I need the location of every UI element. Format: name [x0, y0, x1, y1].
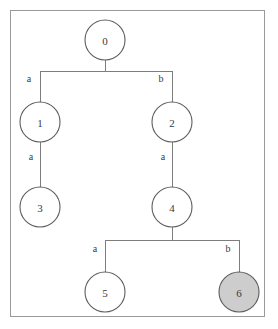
edge-label-e1-3: a	[29, 151, 34, 162]
connectors-layer	[40, 60, 239, 272]
node-label: 6	[236, 287, 242, 299]
node-label: 3	[37, 202, 43, 214]
node-label: 2	[169, 117, 175, 129]
edge-label-e0-2: b	[159, 73, 164, 84]
node-label: 5	[102, 287, 108, 299]
node-label: 4	[169, 202, 175, 214]
tree-node-3[interactable]: 3	[20, 187, 60, 227]
edge-label-e0-1: a	[27, 73, 32, 84]
edge-label-e2-4: a	[161, 151, 166, 162]
edge-labels-layer: abaaab	[27, 73, 231, 254]
edge-label-e4-5: a	[93, 243, 98, 254]
nodes-layer: 0123456	[20, 20, 259, 312]
tree-node-6[interactable]: 6	[219, 272, 259, 312]
node-label: 0	[102, 35, 108, 47]
tree-node-5[interactable]: 5	[85, 272, 125, 312]
tree-diagram: abaaab 0123456	[0, 0, 278, 329]
node-label: 1	[37, 117, 43, 129]
edge-label-e4-6: b	[226, 243, 231, 254]
diagram-canvas: abaaab 0123456	[0, 0, 278, 329]
tree-node-0[interactable]: 0	[85, 20, 125, 60]
tree-node-1[interactable]: 1	[20, 102, 60, 142]
tree-node-4[interactable]: 4	[152, 187, 192, 227]
tree-node-2[interactable]: 2	[152, 102, 192, 142]
